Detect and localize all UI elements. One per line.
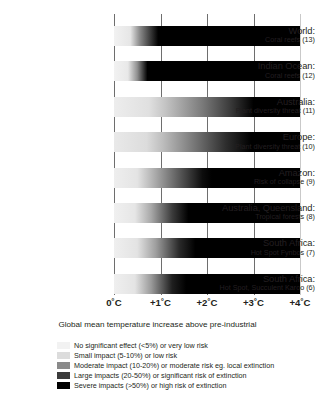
legend-item: Moderate impact (10-20%) or moderate ris… <box>57 361 307 370</box>
legend-item: Large impacts (20-50%) or significant ri… <box>57 371 307 380</box>
row-label-detail: Hot Spot Fynbos (7) <box>203 249 315 257</box>
x-tick-label: +4˚C <box>289 297 310 308</box>
legend-swatch-icon <box>57 382 70 389</box>
x-tick-label: +3˚C <box>243 297 264 308</box>
x-axis-tick-labels: 0˚C+1˚C+2˚C+3˚C+4˚C <box>114 297 300 311</box>
climate-risk-chart: World:Coral reefs (13)Indian Ocean:Coral… <box>0 0 315 398</box>
legend-item: Severe impacts (>50%) or high risk of ex… <box>57 381 307 390</box>
row-label-detail: Plant diversity threat (11) <box>203 107 315 115</box>
legend: No significant effect (<5%) or very low … <box>57 341 307 391</box>
row-label: Europe:Plant diversity threat (10) <box>203 132 315 150</box>
x-axis-title: Global mean temperature increase above p… <box>0 320 315 329</box>
row-label-detail: Tropical forests (8) <box>203 213 315 221</box>
row-label-detail: Coral reefs (13) <box>203 36 315 44</box>
row-label: Amazon:Risk of collapse (9) <box>203 168 315 186</box>
row-label: South Africa:Hot Spot, Succulent Karoo (… <box>203 274 315 292</box>
row-label-detail: Plant diversity threat (10) <box>203 143 315 151</box>
row-label: World:Coral reefs (13) <box>203 26 315 44</box>
row-label-detail: Hot Spot, Succulent Karoo (6) <box>203 284 315 292</box>
legend-label: Severe impacts (>50%) or high risk of ex… <box>74 382 226 389</box>
row-label: South Africa:Hot Spot Fynbos (7) <box>203 238 315 256</box>
row-label: Australia:Plant diversity threat (11) <box>203 97 315 115</box>
legend-swatch-icon <box>57 372 70 379</box>
x-tick-label: +1˚C <box>150 297 171 308</box>
legend-label: Small impact (5-10%) or low risk <box>74 352 177 359</box>
row-label-detail: Coral reefs (12) <box>203 72 315 80</box>
legend-label: Large impacts (20-50%) or significant ri… <box>74 372 247 379</box>
row-label-detail: Risk of collapse (9) <box>203 178 315 186</box>
legend-item: No significant effect (<5%) or very low … <box>57 341 307 350</box>
row-label: Indian Ocean:Coral reefs (12) <box>203 61 315 79</box>
row-label: Australia, Queensland:Tropical forests (… <box>203 203 315 221</box>
legend-label: No significant effect (<5%) or very low … <box>74 342 208 349</box>
legend-swatch-icon <box>57 342 70 349</box>
x-tick-label: 0˚C <box>106 297 121 308</box>
legend-swatch-icon <box>57 352 70 359</box>
x-tick-label: +2˚C <box>196 297 217 308</box>
legend-label: Moderate impact (10-20%) or moderate ris… <box>74 362 274 369</box>
legend-swatch-icon <box>57 362 70 369</box>
legend-item: Small impact (5-10%) or low risk <box>57 351 307 360</box>
